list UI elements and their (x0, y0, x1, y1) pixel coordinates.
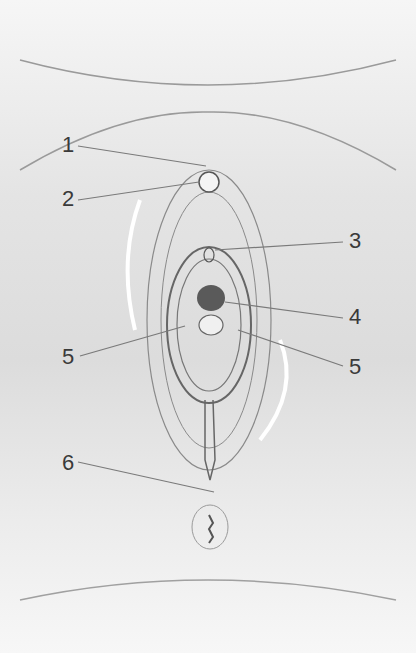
label-5-right: 5 (349, 356, 361, 378)
label-5-left: 5 (62, 346, 74, 368)
label-6: 6 (62, 452, 74, 474)
label-4: 4 (349, 306, 361, 328)
diagram-canvas: 1 2 3 4 5 5 6 (0, 0, 416, 653)
label-1: 1 (62, 134, 74, 156)
label-2: 2 (62, 188, 74, 210)
label-3: 3 (349, 230, 361, 252)
